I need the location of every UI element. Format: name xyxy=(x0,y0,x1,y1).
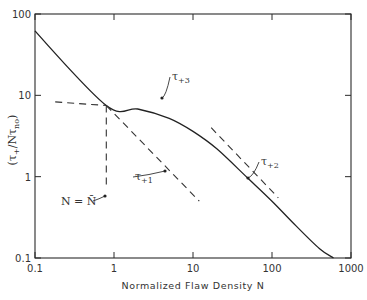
x-tick-label: 0.1 xyxy=(27,263,43,274)
leader-line xyxy=(162,77,170,98)
y-tick-label: 0.1 xyxy=(15,253,31,264)
y-axis-title-group: (τ+/Nτno) xyxy=(6,115,21,166)
series-horizontal-asymptote xyxy=(55,102,106,106)
x-axis-title: Normalized Flaw Density N xyxy=(122,280,265,291)
series-1 xyxy=(106,106,199,202)
x-tick-label: 1000 xyxy=(338,263,363,274)
arrowhead-icon xyxy=(163,169,166,172)
annotation-label: τ+1 xyxy=(135,170,153,185)
y-tick-label: 1 xyxy=(25,172,31,183)
arrowhead-icon xyxy=(103,194,106,197)
log-log-chart: 0.111010010000.1110100 τ+3τ+2τ+1N = N̄ N… xyxy=(0,0,367,300)
x-tick-label: 10 xyxy=(187,263,200,274)
axis-ticks: 0.111010010000.1110100 xyxy=(12,9,364,274)
annotation-label: τ+2 xyxy=(261,155,279,170)
curve-annotations: τ+3τ+2τ+1N = N̄ xyxy=(61,70,279,208)
data-series xyxy=(35,31,334,258)
x-tick-label: 100 xyxy=(262,263,281,274)
x-tick-label: 1 xyxy=(111,263,117,274)
arrowhead-icon xyxy=(160,96,163,99)
series-3 xyxy=(35,31,334,258)
y-tick-label: 10 xyxy=(18,90,31,101)
y-tick-label: 100 xyxy=(12,9,31,20)
annotation-label: τ+3 xyxy=(172,70,190,85)
annotation: τ+1 xyxy=(133,169,167,185)
annotation: τ+3 xyxy=(160,70,189,100)
arrowhead-icon xyxy=(246,176,249,179)
annotation: N = N̄ xyxy=(61,194,107,208)
annotation: τ+2 xyxy=(246,155,278,180)
plot-border xyxy=(35,14,351,258)
plot-frame xyxy=(35,14,351,258)
annotation-label: N = N̄ xyxy=(61,195,97,208)
y-axis-title: (τ+/Nτno) xyxy=(6,115,21,166)
